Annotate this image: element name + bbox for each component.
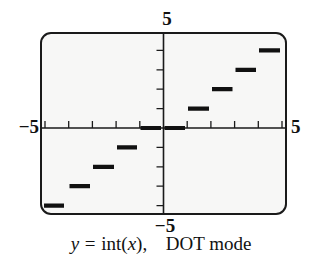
caption-x-variable: x bbox=[128, 233, 136, 254]
calculator-screen bbox=[40, 32, 287, 215]
axis-label-right: 5 bbox=[291, 117, 315, 136]
figure-caption: y = int(x), DOT mode bbox=[0, 234, 322, 254]
graphing-calculator-figure: 5 −5 −5 5 y = int(x), DOT mode bbox=[0, 0, 322, 263]
step-function-plot bbox=[42, 34, 285, 213]
caption-y-variable: y bbox=[71, 233, 79, 254]
caption-function-close: ), bbox=[136, 233, 147, 254]
caption-equals: = bbox=[84, 233, 97, 254]
caption-function-open: int( bbox=[101, 233, 127, 254]
axis-label-top: 5 bbox=[155, 9, 179, 28]
caption-mode-label: DOT mode bbox=[166, 233, 252, 254]
axis-label-left: −5 bbox=[9, 117, 39, 136]
